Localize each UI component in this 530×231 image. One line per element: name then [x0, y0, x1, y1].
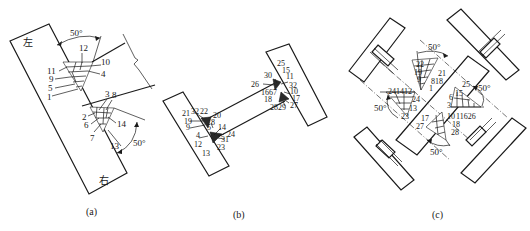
pass-label: 14: [117, 119, 127, 129]
pass-label: 1: [429, 84, 433, 93]
pass-label: 11: [286, 72, 294, 81]
angle-label: 50°: [430, 147, 443, 157]
pass-label: 22: [200, 107, 208, 116]
pass-label: 3: [447, 101, 451, 110]
pass-label: 6: [84, 120, 89, 130]
angle-label: 50°: [428, 42, 441, 52]
pass-label: 27: [416, 122, 424, 131]
pass-label: 12: [79, 43, 88, 53]
pass-label: 8: [211, 118, 215, 127]
flange-bottom-right: [461, 118, 526, 183]
caption-c: (c): [432, 209, 443, 221]
pass-label: 4: [196, 131, 200, 140]
pass-label: 15: [455, 89, 463, 98]
arrow-icon: [134, 122, 139, 127]
caption-b: (b): [233, 209, 245, 221]
angle-label: 50°: [478, 83, 491, 93]
pass-label: 13: [409, 104, 417, 113]
pass-label: 7: [90, 133, 95, 143]
arrow-icon: [95, 36, 100, 41]
plate-label-left: 左: [23, 36, 33, 48]
pass-label: 12: [194, 140, 202, 149]
angle-label: 50°: [70, 28, 83, 38]
pass-label: 14: [218, 123, 226, 132]
pass-label: 1: [47, 92, 52, 102]
panel-a: 12 10 11 4 9 5 1 3 8 2 6 14 7 13 50° 50°…: [10, 24, 155, 218]
pass-label: 2829: [270, 103, 286, 112]
pass-label: 5: [207, 123, 211, 132]
pass-label: 13: [110, 141, 120, 151]
pass-label: 10: [101, 57, 111, 67]
pass-label: 4: [101, 69, 106, 79]
caption-a: (a): [86, 206, 97, 218]
pass-label: 24: [412, 95, 420, 104]
pass-label: 27: [290, 101, 298, 110]
panel-b: 21 32 22 20 19 8 9 5 14 4 24 31 12 23 13…: [163, 44, 327, 221]
pass-label: 30: [264, 71, 272, 80]
pass-label: 25: [462, 80, 470, 89]
angle-label: 50°: [133, 138, 146, 148]
pass-label: 3: [105, 89, 110, 99]
pass-label: 9: [186, 123, 190, 132]
welding-sequence-diagram: 12 10 11 4 9 5 1 3 8 2 6 14 7 13 50° 50°…: [0, 0, 530, 231]
angle-label: 50°: [374, 103, 387, 113]
panel-c: 22 19 9 21 818 1 2414 12 24 13 23 25 15 …: [349, 9, 526, 221]
pass-label: 32: [191, 107, 199, 116]
pass-label: 26: [251, 80, 259, 89]
branch-lower-edge: [82, 85, 155, 106]
pass-label: 28: [451, 128, 459, 137]
break-line: [123, 34, 152, 89]
pass-label: 2414: [388, 87, 404, 96]
pass-label: 13: [202, 149, 210, 158]
pass-label: 23: [401, 112, 409, 121]
pass-label: 8: [112, 90, 117, 100]
plate-label-right: 右: [99, 174, 109, 186]
pass-label: 23: [217, 143, 225, 152]
pass-label: 12: [404, 87, 412, 96]
pass-label: 9: [417, 75, 421, 84]
